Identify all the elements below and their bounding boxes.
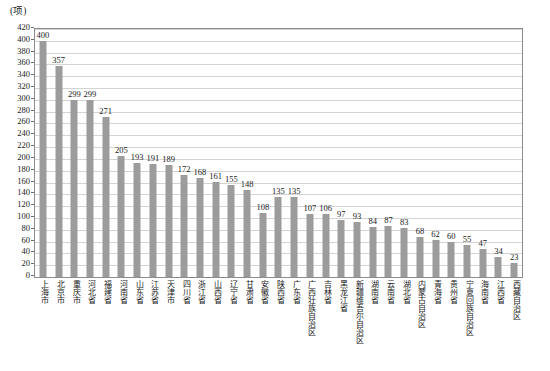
bar xyxy=(39,41,46,277)
y-axis-tick-label: 300 xyxy=(0,93,34,104)
x-axis-tick-label: 天津市 xyxy=(163,280,175,304)
bar xyxy=(511,263,518,277)
bar-value-label: 193 xyxy=(131,152,144,162)
x-axis-tick-label: 河北省 xyxy=(84,280,96,304)
y-axis-tick-label: 20 xyxy=(0,258,34,269)
x-axis-tick-label: 云南省 xyxy=(382,280,394,304)
y-axis-tick-label: 160 xyxy=(0,176,34,187)
bar xyxy=(338,220,345,277)
bar-column: 299 xyxy=(66,29,82,277)
bar-column: 93 xyxy=(349,29,365,277)
bar-column: 400 xyxy=(35,29,51,277)
bar-value-label: 106 xyxy=(319,203,332,213)
bar-value-label: 161 xyxy=(209,171,222,181)
bar xyxy=(275,197,282,277)
bar-column: 161 xyxy=(208,29,224,277)
x-axis-tick-label: 内蒙古自治区 xyxy=(414,280,426,328)
bar-value-label: 107 xyxy=(304,203,317,213)
x-axis-tick-label: 新疆维吾尔自治区 xyxy=(351,280,363,344)
bar-value-label: 93 xyxy=(353,211,362,221)
y-axis-tick-label: 180 xyxy=(0,164,34,175)
x-axis-tick-label: 青海省 xyxy=(430,280,442,304)
bar-value-label: 299 xyxy=(84,89,97,99)
bar-value-label: 23 xyxy=(510,252,519,262)
bar-column: 55 xyxy=(459,29,475,277)
bar xyxy=(322,214,329,277)
x-axis-tick-label: 江苏省 xyxy=(147,280,159,304)
bar xyxy=(196,178,203,277)
y-axis-tick-label: 420 xyxy=(0,22,34,33)
bar-column: 299 xyxy=(82,29,98,277)
y-axis-tick-label: 400 xyxy=(0,34,34,45)
y-axis-tick-label: 320 xyxy=(0,81,34,92)
bar-value-label: 148 xyxy=(241,179,254,189)
bar-value-label: 189 xyxy=(162,154,175,164)
bar-column: 106 xyxy=(318,29,334,277)
x-axis-tick-label: 河南省 xyxy=(115,280,127,304)
x-axis-tick-label: 黑龙江省 xyxy=(335,280,347,312)
bar-column: 135 xyxy=(286,29,302,277)
bar-column: 97 xyxy=(333,29,349,277)
bar xyxy=(354,222,361,277)
x-axis-tick-label: 安徽省 xyxy=(257,280,269,304)
bar-value-label: 34 xyxy=(494,246,503,256)
bar-column: 155 xyxy=(224,29,240,277)
bar xyxy=(495,257,502,277)
bar-value-label: 135 xyxy=(272,186,285,196)
bar xyxy=(118,156,125,277)
bar-value-label: 97 xyxy=(337,209,346,219)
bar-value-label: 62 xyxy=(431,229,440,239)
y-axis-tick-label: 260 xyxy=(0,116,34,127)
bar xyxy=(259,213,266,277)
bar-column: 87 xyxy=(381,29,397,277)
bar xyxy=(149,164,156,277)
x-axis-tick-label: 宁夏回族自治区 xyxy=(461,280,473,336)
x-axis-tick-label: 福建省 xyxy=(100,280,112,304)
bar xyxy=(385,226,392,277)
y-axis-tick-label: 120 xyxy=(0,199,34,210)
bar-value-label: 155 xyxy=(225,174,238,184)
bar xyxy=(86,100,93,277)
bar xyxy=(228,185,235,277)
x-axis-tick-label: 浙江省 xyxy=(194,280,206,304)
bar-value-label: 299 xyxy=(68,89,81,99)
y-axis-tick-label: 200 xyxy=(0,152,34,163)
bar-column: 84 xyxy=(365,29,381,277)
x-axis-tick-label: 甘肃省 xyxy=(241,280,253,304)
x-axis-tick-label: 吉林省 xyxy=(320,280,332,304)
bar xyxy=(291,197,298,277)
bar-value-label: 205 xyxy=(115,145,128,155)
bar-series: 4003572992992712051931911891721681611551… xyxy=(35,29,522,277)
bar xyxy=(369,227,376,277)
bar-value-label: 191 xyxy=(146,153,159,163)
y-axis-tick-label: 140 xyxy=(0,187,34,198)
bar xyxy=(244,190,251,277)
bar-column: 148 xyxy=(239,29,255,277)
x-axis-tick-label: 湖南省 xyxy=(367,280,379,304)
y-axis-tick-label: 240 xyxy=(0,128,34,139)
bar-column: 83 xyxy=(396,29,412,277)
bar xyxy=(464,245,471,277)
y-axis-tick-label: 380 xyxy=(0,46,34,57)
bar xyxy=(479,249,486,277)
bar-column: 60 xyxy=(443,29,459,277)
bar-column: 47 xyxy=(475,29,491,277)
bar-column: 107 xyxy=(302,29,318,277)
x-axis-tick-label: 四川省 xyxy=(178,280,190,304)
bar-column: 34 xyxy=(491,29,507,277)
x-axis-tick-label: 海南省 xyxy=(477,280,489,304)
bar-value-label: 271 xyxy=(99,106,112,116)
y-axis-tick-label: 220 xyxy=(0,140,34,151)
x-axis-tick-label: 广西壮族自治区 xyxy=(304,280,316,336)
x-axis-tick-label: 西藏自治区 xyxy=(508,280,520,320)
bar-value-label: 108 xyxy=(256,202,269,212)
bar xyxy=(432,240,439,277)
bar-column: 23 xyxy=(506,29,522,277)
bar xyxy=(181,175,188,277)
bar xyxy=(165,165,172,277)
x-axis-tick-label: 山西省 xyxy=(210,280,222,304)
bar xyxy=(212,182,219,277)
bar-value-label: 168 xyxy=(194,167,207,177)
y-axis-unit-label: (项) xyxy=(10,6,26,17)
y-axis-tick-label: 360 xyxy=(0,57,34,68)
